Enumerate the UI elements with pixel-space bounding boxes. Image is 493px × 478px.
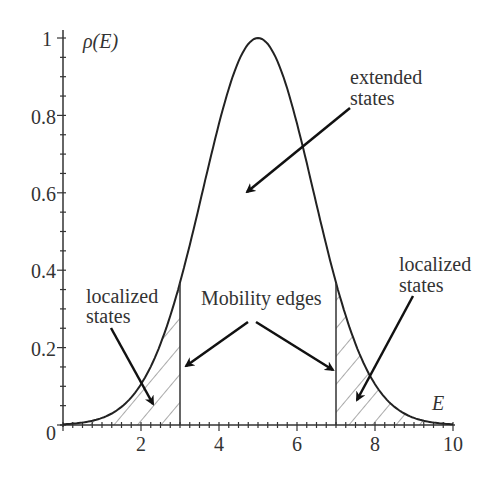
y-tick-label-0.2: 0.2 [31, 338, 56, 360]
localized-states-right-arrow [357, 296, 413, 400]
x-tick-label-4: 4 [214, 433, 224, 455]
y-tick-label-1: 1 [42, 28, 52, 50]
x-axis-label: E [431, 392, 444, 414]
density-of-states-chart: 1 0.8 0.6 0.4 0.2 0 2 4 6 8 10 ρ(E) E ex… [0, 0, 493, 478]
x-tick-label-2: 2 [136, 433, 146, 455]
mobility-edge-arrow-left [186, 322, 248, 366]
localized-states-right-label-line2: states [399, 274, 444, 296]
y-tick-label-0: 0 [46, 422, 56, 444]
x-tick-label-8: 8 [370, 433, 380, 455]
extended-states-arrow [247, 108, 350, 192]
y-tick-label-0.6: 0.6 [31, 183, 56, 205]
x-ticks [63, 422, 453, 431]
mobility-edge-arrow-right [256, 322, 333, 370]
localized-states-left-arrow [111, 328, 153, 404]
x-tick-label-10: 10 [443, 433, 463, 455]
mobility-edges-label: Mobility edges [201, 287, 322, 310]
x-tick-label-6: 6 [292, 433, 302, 455]
y-tick-label-0.8: 0.8 [31, 106, 56, 128]
density-curve [63, 38, 453, 424]
localized-states-left-label-line1: localized [86, 285, 158, 307]
y-axis-label: ρ(E) [82, 30, 118, 53]
y-ticks [57, 38, 66, 425]
extended-states-label-line2: states [350, 87, 395, 109]
y-tick-label-0.4: 0.4 [31, 260, 56, 282]
extended-states-label-line1: extended [350, 66, 422, 88]
localized-states-right-label-line1: localized [399, 253, 471, 275]
localized-states-left-label-line2: states [86, 305, 131, 327]
